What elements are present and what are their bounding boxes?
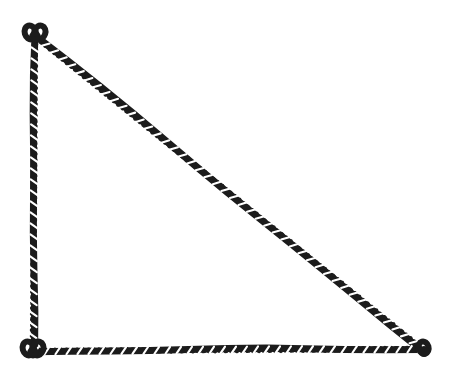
knot-bottom-left (21, 340, 45, 357)
knot-bottom-right (417, 340, 430, 355)
knot-bottom-right-cinch (421, 349, 426, 354)
figure-canvas: A closed right-angled triangle drawn as … (0, 0, 458, 385)
knot-top-left (23, 24, 47, 41)
rope-triangle-illustration (0, 0, 458, 385)
